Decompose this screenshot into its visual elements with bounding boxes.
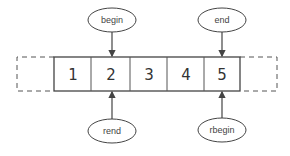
rbegin-label: rbegin: [209, 125, 234, 135]
array: 1 2 3 4 5: [54, 57, 240, 91]
end-label: end: [214, 15, 229, 25]
begin-pointer: begin: [88, 8, 136, 56]
array-cell-4: 4: [181, 66, 191, 84]
array-cell-2: 2: [106, 66, 116, 84]
array-cell-3: 3: [144, 66, 154, 84]
rend-label: rend: [103, 126, 121, 136]
array-cell-1: 1: [68, 66, 78, 84]
rbegin-pointer: rbegin: [198, 92, 246, 142]
array-cell-5: 5: [217, 66, 227, 84]
end-pointer: end: [198, 8, 246, 56]
rend-pointer: rend: [88, 92, 136, 143]
right-sentinel-box: [240, 57, 277, 91]
iterator-diagram: 1 2 3 4 5 begin end rend rbegin: [0, 0, 290, 156]
begin-label: begin: [101, 15, 123, 25]
left-sentinel-box: [17, 57, 54, 91]
